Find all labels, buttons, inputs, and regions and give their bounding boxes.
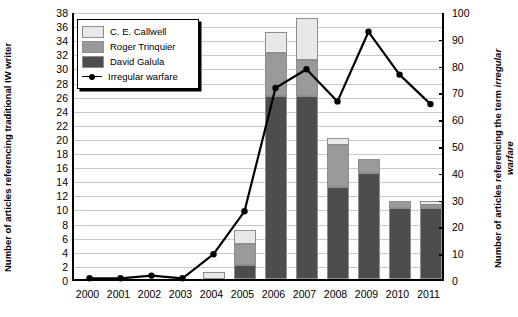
y-tick-left-36: 36 [40,22,68,32]
x-tick-2011: 2011 [409,288,449,300]
line-point-2005[interactable] [241,208,247,214]
y-tick-left-34: 34 [40,36,68,46]
y-tick-right-10: 10 [452,249,480,259]
chart-legend: C. E. Callwell Roger Trinquier David Gal… [77,19,199,89]
line-point-2002[interactable] [148,272,154,278]
legend-item-callwell: C. E. Callwell [82,24,193,39]
y-tick-mark-right-80 [439,67,444,69]
swatch-galula-icon [82,56,104,68]
line-point-2001[interactable] [117,275,123,281]
y-tick-right-70: 70 [452,88,480,98]
line-point-2010[interactable] [396,71,402,77]
y-tick-right-100: 100 [452,8,480,18]
y-axis-left-title: Number of articles referencing tradition… [2,42,28,272]
y-axis-right-title: Number of articles referencing the term … [492,36,518,280]
y-tick-mark-right-90 [439,40,444,42]
y-tick-left-18: 18 [40,149,68,159]
y-tick-left-20: 20 [40,135,68,145]
y-tick-left-26: 26 [40,93,68,103]
line-point-2008[interactable] [334,98,340,104]
line-point-2000[interactable] [86,275,92,281]
chart-figure: Number of articles referencing tradition… [0,0,518,317]
y-tick-left-28: 28 [40,79,68,89]
line-point-2007[interactable] [303,66,309,72]
y-tick-left-12: 12 [40,191,68,201]
y-tick-mark-right-60 [439,120,444,122]
y-tick-right-30: 30 [452,196,480,206]
y-tick-right-40: 40 [452,169,480,179]
line-point-2003[interactable] [179,275,185,281]
legend-item-trinquier: Roger Trinquier [82,39,193,54]
y-tick-left-16: 16 [40,163,68,173]
y-tick-mark-right-30 [439,201,444,203]
swatch-trinquier-icon [82,41,104,53]
y-axis-right-title-text: Number of articles referencing the term [492,87,503,268]
y-tick-mark-right-10 [439,254,444,256]
y-tick-mark-right-70 [439,93,444,95]
line-point-2011[interactable] [427,101,433,107]
y-tick-left-8: 8 [40,220,68,230]
line-marker-icon [82,72,102,82]
legend-label-callwell: C. E. Callwell [110,26,167,37]
y-tick-right-90: 90 [452,35,480,45]
line-point-2004[interactable] [210,251,216,257]
swatch-callwell-icon [82,26,104,38]
y-tick-left-2: 2 [40,262,68,272]
legend-label-galula: David Galula [110,56,164,67]
y-tick-left-0: 0 [40,276,68,286]
y-tick-left-38: 38 [40,8,68,18]
y-tick-left-32: 32 [40,50,68,60]
y-tick-left-24: 24 [40,107,68,117]
y-tick-right-80: 80 [452,62,480,72]
y-tick-left-30: 30 [40,64,68,74]
y-tick-mark-right-50 [439,147,444,149]
y-tick-left-22: 22 [40,121,68,131]
y-tick-right-50: 50 [452,142,480,152]
y-tick-right-0: 0 [452,276,480,286]
y-tick-left-6: 6 [40,234,68,244]
y-tick-left-14: 14 [40,177,68,187]
legend-item-irregular-warfare: Irregular warfare [82,69,193,84]
y-tick-right-20: 20 [452,222,480,232]
legend-label-trinquier: Roger Trinquier [110,41,175,52]
legend-item-galula: David Galula [82,54,193,69]
line-point-2006[interactable] [272,85,278,91]
y-tick-right-60: 60 [452,115,480,125]
y-tick-left-4: 4 [40,248,68,258]
y-tick-mark-right-20 [439,227,444,229]
y-tick-mark-right-40 [439,174,444,176]
line-point-2009[interactable] [365,29,371,35]
legend-label-irregular-warfare: Irregular warfare [108,71,178,82]
y-tick-left-10: 10 [40,205,68,215]
